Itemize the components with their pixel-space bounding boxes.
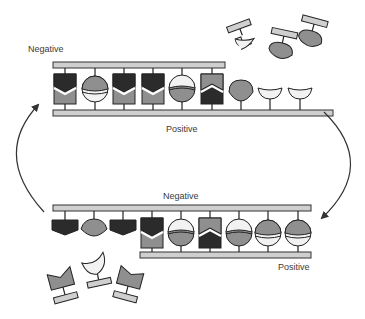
free-notch-unit (113, 266, 144, 303)
free-lens-unit (266, 28, 297, 61)
top-positive-rail (53, 110, 333, 116)
unit-sphere (168, 219, 194, 246)
free-crescent-unit (81, 252, 112, 288)
top-positive-label: Positive (166, 124, 198, 134)
unit-chevron (199, 218, 221, 248)
bottom-assembly (47, 205, 311, 304)
unit-lens (229, 80, 253, 101)
unit-sphere (285, 220, 311, 246)
unit-sphere (169, 75, 195, 102)
unit-pentagon (52, 220, 78, 235)
unit-chevron (201, 74, 223, 104)
top-negative-label: Negative (28, 44, 64, 54)
unit-cup (258, 88, 282, 99)
left-cycle-arrow-icon (16, 105, 44, 212)
unit-chevron (141, 218, 163, 248)
replication-cycle-diagram: Negative Positive Negative Positive (0, 0, 365, 319)
bottom-negative-rail (53, 205, 311, 211)
bottom-positive-label: Positive (278, 262, 310, 272)
free-lens-unit (296, 15, 328, 49)
top-assembly (53, 15, 333, 116)
right-cycle-arrow-icon (322, 112, 351, 218)
unit-chevron (113, 74, 135, 104)
top-negative-rail (53, 62, 225, 68)
unit-lens (81, 219, 107, 236)
bottom-negative-label: Negative (163, 191, 199, 201)
free-notch-unit (47, 267, 78, 304)
unit-chevron (54, 74, 76, 104)
unit-sphere (255, 220, 281, 246)
unit-chevron (142, 74, 164, 104)
unit-pentagon (110, 220, 136, 235)
unit-sphere (82, 76, 108, 102)
unit-sphere (226, 219, 252, 246)
unit-cup (288, 88, 312, 99)
free-crescent-unit (227, 19, 258, 52)
bottom-positive-rail (140, 252, 311, 258)
